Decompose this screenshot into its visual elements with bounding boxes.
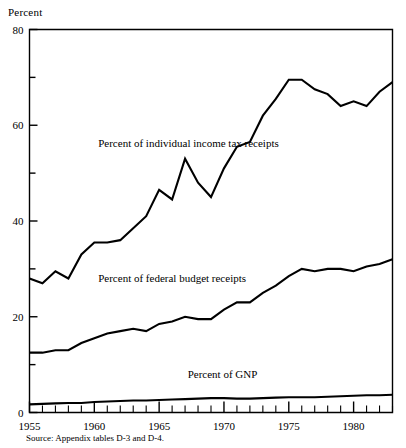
series-lines — [30, 80, 393, 405]
x-tick-label: 1970 — [213, 420, 236, 432]
x-axis-tick-labels: 195519601965197019751980 — [19, 420, 366, 432]
x-tick-label: 1980 — [343, 420, 366, 432]
source-note: Source: Appendix tables D-3 and D-4. — [26, 433, 164, 444]
y-tick-label: 40 — [13, 215, 25, 227]
x-tick-label: 1960 — [83, 420, 106, 432]
line-chart: 020406080 195519601965197019751980 Perce… — [0, 0, 406, 448]
series-annotation-2: Percent of federal budget receipts — [98, 272, 246, 284]
plot-frame — [30, 30, 393, 413]
x-tick-label: 1965 — [148, 420, 171, 432]
series-line-3 — [30, 395, 393, 405]
series-annotations: Percent of individual income tax receipt… — [98, 137, 279, 380]
y-tick-label: 60 — [13, 119, 25, 131]
x-tick-label: 1955 — [19, 420, 42, 432]
y-axis-tick-labels: 020406080 — [13, 24, 25, 419]
y-tick-label: 80 — [13, 24, 25, 36]
series-annotation-1: Percent of individual income tax receipt… — [98, 137, 279, 149]
figure-panel: Percent 020406080 1955196019651970197519… — [0, 0, 406, 448]
y-axis-ticks — [30, 30, 38, 413]
series-annotation-3: Percent of GNP — [188, 368, 258, 380]
y-tick-label: 0 — [18, 407, 24, 419]
x-tick-label: 1975 — [278, 420, 301, 432]
y-tick-label: 20 — [13, 311, 25, 323]
series-line-1 — [30, 80, 393, 283]
